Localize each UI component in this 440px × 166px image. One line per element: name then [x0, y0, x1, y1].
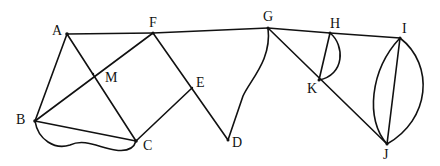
edge-C-E — [136, 88, 192, 141]
label-I: I — [402, 21, 407, 36]
label-J: J — [383, 147, 389, 162]
vertex-H — [329, 32, 332, 35]
edge-G-H — [268, 28, 330, 33]
vertex-M — [92, 73, 94, 75]
edge-A-B — [35, 34, 67, 121]
label-E: E — [196, 75, 205, 90]
edge-H-I — [330, 33, 400, 38]
label-B: B — [16, 112, 25, 127]
edge-I-J — [387, 38, 400, 144]
vertex-G — [267, 27, 270, 30]
edge-H-K — [319, 33, 330, 80]
label-M: M — [105, 70, 118, 85]
edge-I-J-arc-right — [387, 38, 423, 144]
vertex-C — [134, 139, 138, 143]
vertex-J — [386, 143, 389, 146]
vertex-F — [152, 32, 155, 35]
edge-B-C — [35, 121, 136, 141]
vertex-E — [191, 87, 193, 89]
label-C: C — [143, 138, 152, 153]
edge-F-D — [153, 33, 228, 140]
label-A: A — [52, 23, 63, 38]
edge-F-G — [153, 28, 268, 33]
vertex-A — [65, 32, 69, 36]
label-D: D — [232, 135, 242, 150]
vertex-labels: A F G H I M E B C D K J — [16, 9, 407, 162]
graph-diagram: A F G H I M E B C D K J — [0, 0, 440, 166]
label-K: K — [307, 81, 317, 96]
vertex-K — [318, 79, 321, 82]
label-H: H — [330, 16, 340, 31]
edge-A-F — [67, 33, 153, 34]
vertex-B — [33, 119, 37, 123]
straight-edges — [35, 28, 400, 144]
edge-I-J-arc-left — [373, 38, 400, 144]
edge-H-K-arc — [319, 33, 340, 80]
label-G: G — [263, 9, 273, 24]
vertex-D — [227, 139, 230, 142]
vertex-I — [399, 37, 402, 40]
edge-G-D-curve — [228, 28, 268, 140]
label-F: F — [149, 15, 157, 30]
edge-F-B — [35, 33, 153, 121]
edge-A-C — [67, 34, 136, 141]
edge-B-C-wavy — [35, 121, 136, 151]
vertices — [33, 27, 401, 146]
